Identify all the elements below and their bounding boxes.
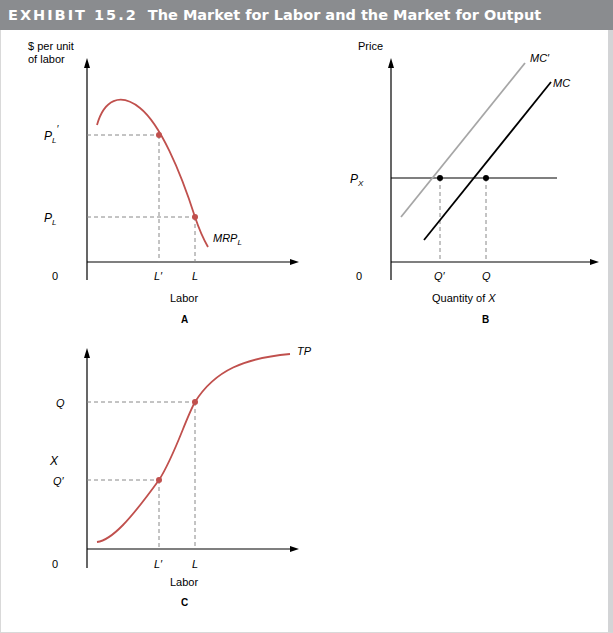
panel-c-origin: 0 (52, 558, 58, 570)
panel-c-xtick-l-prime: L′ (154, 558, 163, 570)
panel-b-ylabel: Price (358, 40, 383, 52)
panel-b-point-prime (437, 175, 443, 181)
panel-b-xtick-q-prime: Q′ (434, 270, 446, 282)
panel-c-letter: C (181, 597, 188, 608)
panel-a-ytick-pl: PL (44, 211, 56, 227)
panel-b-mc-label: MC (553, 77, 570, 89)
panel-a-point-prime (156, 132, 162, 138)
panel-b: Price MC′ MC PX 0 Q′ Q Quantity of X B (350, 40, 599, 325)
panel-c: X TP Q Q′ 0 L′ L Labor C (49, 345, 312, 608)
panel-c-xtick-l: L (192, 558, 198, 570)
panel-c-ytick-q-prime: Q′ (53, 475, 65, 487)
panel-b-mc-line (424, 82, 551, 240)
panel-b-mc-prime-label: MC′ (530, 52, 550, 64)
panel-a-x-arrow-icon (290, 259, 299, 265)
panel-c-tp-curve (97, 354, 290, 542)
panel-a-mrp-curve (97, 100, 208, 247)
panel-b-point (483, 175, 489, 181)
panel-a-point (192, 214, 198, 220)
figure-canvas: $ per unit of labor PL′ PL 0 L′ L MRPL L… (0, 0, 613, 633)
panel-b-origin: 0 (356, 270, 362, 282)
exhibit-figure: EXHIBIT 15.2The Market for Labor and the… (0, 0, 613, 633)
panel-b-xlabel: Quantity of X (432, 292, 496, 304)
panel-a-curve-label: MRPL (213, 232, 242, 247)
panel-b-mc-prime-line (401, 63, 525, 217)
panel-a-ylabel-line2: of labor (28, 53, 65, 65)
panel-a-letter: A (181, 314, 188, 325)
panel-a-ytick-pl-prime: PL′ (44, 124, 59, 145)
panel-c-x-arrow-icon (290, 546, 299, 552)
panel-b-ytick-px: PX (350, 172, 364, 188)
panel-a-xtick-l: L (192, 270, 198, 282)
panel-c-y-arrow-icon (84, 348, 90, 358)
panel-c-point (192, 399, 198, 405)
panel-c-xlabel: Labor (170, 576, 198, 588)
panel-a-ylabel-line1: $ per unit (28, 40, 74, 52)
panel-a-xlabel: Labor (170, 292, 198, 304)
panel-c-point-prime (156, 477, 162, 483)
panel-a-xtick-l-prime: L′ (154, 270, 163, 282)
panel-c-ytick-q: Q (56, 397, 65, 409)
panel-a: $ per unit of labor PL′ PL 0 L′ L MRPL L… (28, 40, 299, 325)
panel-b-y-arrow-icon (388, 58, 394, 68)
panel-b-xtick-q: Q (482, 270, 491, 282)
panel-c-curve-label: TP (297, 345, 312, 357)
panel-a-origin: 0 (52, 270, 58, 282)
panel-a-y-arrow-icon (84, 58, 90, 68)
panel-b-letter: B (482, 314, 489, 325)
panel-b-x-arrow-icon (590, 259, 599, 265)
panel-c-ylabel: X (49, 454, 59, 468)
